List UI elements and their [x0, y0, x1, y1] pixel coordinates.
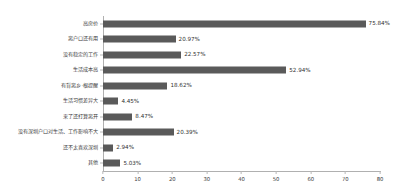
- x-tick: 20: [169, 171, 176, 182]
- category-label: 离户口还有用: [68, 37, 98, 42]
- bar-value-label: 8.47%: [135, 114, 153, 120]
- bar-container: 8.47%: [103, 113, 153, 120]
- x-tick-label: 0: [101, 177, 104, 182]
- category-label: 高房价: [83, 21, 98, 26]
- x-tick: 70: [342, 171, 349, 182]
- bar-value-label: 75.84%: [369, 21, 390, 27]
- x-tick-mark: [241, 171, 242, 174]
- bar-row: 生活习惯差异大4.45%: [0, 94, 400, 110]
- x-tick-label: 80: [377, 177, 384, 182]
- x-tick-label: 70: [342, 177, 349, 182]
- x-tick: 60: [307, 171, 314, 182]
- bar-container: 2.94%: [103, 144, 134, 151]
- bar-value-label: 20.39%: [177, 129, 198, 135]
- bar-container: 5.03%: [103, 160, 141, 167]
- x-tick-label: 40: [238, 177, 245, 182]
- x-tick: 30: [204, 171, 211, 182]
- x-tick-label: 30: [204, 177, 211, 182]
- bar-row: 有背离乡·根提醒18.62%: [0, 78, 400, 94]
- x-tick: 0: [101, 171, 104, 182]
- bar: [103, 20, 366, 27]
- bar: [103, 160, 120, 167]
- bar: [103, 36, 176, 43]
- category-label: 有背离乡·根提醒: [61, 83, 98, 88]
- category-label: 生活成本高: [73, 68, 98, 73]
- x-axis-ticks: 01020304050607080: [103, 171, 380, 191]
- category-label: 没有稳定的工作: [63, 52, 98, 57]
- category-label: 生活习惯差异大: [63, 99, 98, 104]
- x-tick-mark: [103, 171, 104, 174]
- x-tick-label: 50: [273, 177, 280, 182]
- bar: [103, 67, 286, 74]
- bar-value-label: 5.03%: [123, 160, 141, 166]
- bar: [103, 113, 132, 120]
- x-tick-mark: [310, 171, 311, 174]
- bar-row: 来了还打算离开8.47%: [0, 109, 400, 125]
- category-label: 没有深圳户口对生活、工作影响不大: [18, 130, 98, 135]
- bar-value-label: 52.94%: [289, 67, 310, 73]
- x-tick-label: 10: [134, 177, 141, 182]
- x-tick-mark: [380, 171, 381, 174]
- bar-value-label: 22.57%: [184, 52, 205, 58]
- x-tick: 10: [134, 171, 141, 182]
- bar-row: 其他5.03%: [0, 156, 400, 172]
- bar-container: 18.62%: [103, 82, 192, 89]
- bar-container: 52.94%: [103, 67, 311, 74]
- category-label: 还不太喜欢深圳: [63, 145, 98, 150]
- category-label: 其他: [88, 161, 98, 166]
- x-tick-label: 20: [169, 177, 176, 182]
- bar-row: 生活成本高52.94%: [0, 63, 400, 79]
- bar-container: 22.57%: [103, 51, 205, 58]
- bar-row: 高房价75.84%: [0, 16, 400, 32]
- bar-value-label: 4.45%: [121, 98, 139, 104]
- x-tick: 50: [273, 171, 280, 182]
- bar-row: 没有深圳户口对生活、工作影响不大20.39%: [0, 125, 400, 141]
- category-label: 来了还打算离开: [63, 114, 98, 119]
- bar: [103, 98, 118, 105]
- bar-row: 离户口还有用20.97%: [0, 32, 400, 48]
- bar-value-label: 2.94%: [116, 145, 134, 151]
- bar-chart: 高房价75.84%离户口还有用20.97%没有稳定的工作22.57%生活成本高5…: [0, 0, 400, 195]
- bar: [103, 51, 181, 58]
- bar: [103, 82, 167, 89]
- bar-container: 20.97%: [103, 36, 200, 43]
- bar-container: 75.84%: [103, 20, 390, 27]
- bar-rows: 高房价75.84%离户口还有用20.97%没有稳定的工作22.57%生活成本高5…: [0, 16, 400, 171]
- bar-container: 20.39%: [103, 129, 198, 136]
- x-tick-mark: [137, 171, 138, 174]
- bar: [103, 144, 113, 151]
- bar-value-label: 18.62%: [170, 83, 191, 89]
- x-tick-mark: [345, 171, 346, 174]
- bar: [103, 129, 174, 136]
- x-tick-mark: [172, 171, 173, 174]
- x-tick: 80: [377, 171, 384, 182]
- bar-row: 没有稳定的工作22.57%: [0, 47, 400, 63]
- x-tick-mark: [206, 171, 207, 174]
- bar-container: 4.45%: [103, 98, 139, 105]
- x-tick-label: 60: [307, 177, 314, 182]
- x-tick-mark: [276, 171, 277, 174]
- bar-value-label: 20.97%: [179, 36, 200, 42]
- x-tick: 40: [238, 171, 245, 182]
- bar-row: 还不太喜欢深圳2.94%: [0, 140, 400, 156]
